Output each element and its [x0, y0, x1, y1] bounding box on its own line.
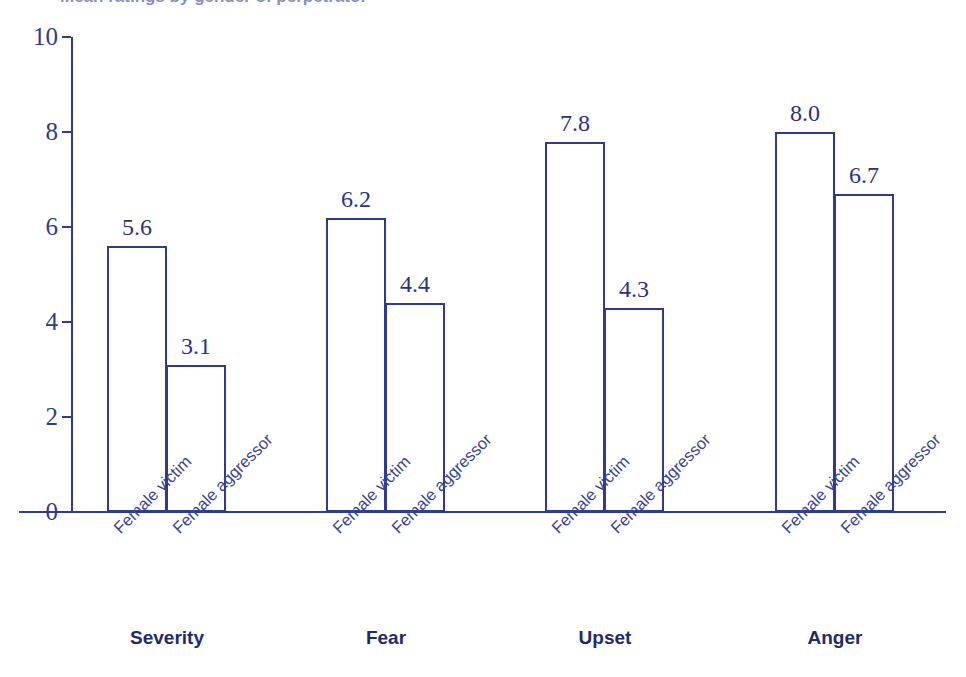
- group-label-fear: Fear: [266, 627, 506, 649]
- group-label-anger: Anger: [715, 627, 955, 649]
- bar-value-label: 8.0: [757, 101, 853, 125]
- y-axis-tick: [62, 416, 71, 418]
- y-axis-tick: [62, 321, 71, 323]
- y-axis-tick: [62, 511, 71, 513]
- bar: [326, 218, 386, 513]
- y-axis-tick: [62, 131, 71, 133]
- plot-area: 0246810 5.63.16.24.47.84.38.06.7 Female …: [0, 0, 966, 677]
- bar-value-label: 4.4: [367, 272, 463, 296]
- y-axis-tick-label: 0: [12, 499, 58, 524]
- y-axis-tick-label: 8: [12, 119, 58, 144]
- y-axis-tick: [62, 36, 71, 38]
- bar-value-label: 3.1: [148, 334, 244, 358]
- y-axis-tick: [62, 226, 71, 228]
- bar-value-label: 7.8: [527, 111, 623, 135]
- y-axis-tick-label: 6: [12, 214, 58, 239]
- y-axis-tick-label: 10: [12, 24, 58, 49]
- bar-value-label: 6.2: [308, 187, 404, 211]
- y-axis-tick-label: 2: [12, 404, 58, 429]
- bar: [107, 246, 167, 512]
- bar-value-label: 5.6: [89, 215, 185, 239]
- y-axis-line: [71, 37, 73, 513]
- group-label-severity: Severity: [47, 627, 287, 649]
- bar: [775, 132, 835, 512]
- group-label-upset: Upset: [485, 627, 725, 649]
- bar: [545, 142, 605, 513]
- y-axis-tick-label: 4: [12, 309, 58, 334]
- bar-chart: Mean ratings by gender of perpetrator 02…: [0, 0, 966, 677]
- bar-value-label: 4.3: [586, 277, 682, 301]
- bar-value-label: 6.7: [816, 163, 912, 187]
